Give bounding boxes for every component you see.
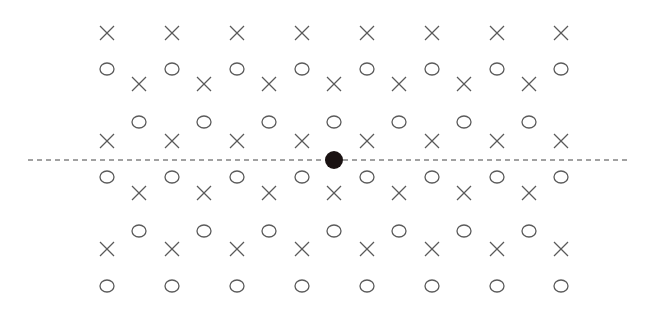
circle-symbol-icon (522, 116, 536, 128)
cross-symbol-icon (490, 26, 504, 40)
cross-symbol-icon (360, 26, 374, 40)
circle-symbol-icon (490, 280, 504, 292)
cross-symbol-icon (425, 134, 439, 148)
circle-symbol-icon (262, 116, 276, 128)
circle-symbol-icon (295, 63, 309, 75)
circle-symbol-icon (230, 280, 244, 292)
circle-symbol-icon (392, 225, 406, 237)
cross-symbol-icon (554, 242, 568, 256)
center-dot (325, 151, 343, 169)
circle-symbol-icon (554, 63, 568, 75)
circle-symbol-icon (327, 116, 341, 128)
circle-symbol-icon (490, 171, 504, 183)
circle-symbol-icon (360, 63, 374, 75)
cross-symbol-icon (262, 186, 276, 200)
cross-symbol-icon (522, 186, 536, 200)
circle-symbol-icon (230, 171, 244, 183)
circle-symbol-icon (490, 63, 504, 75)
circle-symbol-icon (425, 63, 439, 75)
cross-symbol-icon (165, 134, 179, 148)
cross-symbol-icon (490, 134, 504, 148)
cross-symbol-icon (230, 26, 244, 40)
circle-symbol-icon (197, 225, 211, 237)
circle-symbol-icon (165, 280, 179, 292)
circle-symbol-icon (327, 225, 341, 237)
circle-symbol-icon (132, 116, 146, 128)
circle-symbol-icon (522, 225, 536, 237)
circle-symbol-icon (100, 171, 114, 183)
circle-symbol-icon (295, 280, 309, 292)
cross-symbol-icon (327, 186, 341, 200)
cross-symbol-icon (360, 242, 374, 256)
cross-symbol-icon (392, 186, 406, 200)
circle-symbol-icon (392, 116, 406, 128)
cross-symbol-icon (100, 134, 114, 148)
cross-symbol-icon (522, 77, 536, 91)
circle-symbol-icon (132, 225, 146, 237)
circle-symbol-icon (425, 171, 439, 183)
circle-symbol-icon (457, 116, 471, 128)
circle-symbol-icon (230, 63, 244, 75)
circle-symbol-icon (360, 171, 374, 183)
cross-symbol-icon (295, 134, 309, 148)
cross-symbol-icon (425, 26, 439, 40)
cross-symbol-icon (262, 77, 276, 91)
cross-symbol-icon (554, 134, 568, 148)
circle-symbol-icon (295, 171, 309, 183)
circle-symbol-icon (425, 280, 439, 292)
cross-symbol-icon (457, 77, 471, 91)
circle-symbol-icon (165, 63, 179, 75)
circle-symbol-icon (100, 280, 114, 292)
circle-symbol-icon (197, 116, 211, 128)
cross-symbol-icon (165, 26, 179, 40)
circle-symbol-icon (262, 225, 276, 237)
circle-symbol-icon (554, 171, 568, 183)
cross-symbol-icon (132, 77, 146, 91)
cross-symbol-icon (165, 242, 179, 256)
cross-symbol-icon (230, 134, 244, 148)
cross-symbol-icon (295, 26, 309, 40)
cross-symbol-icon (425, 242, 439, 256)
circle-symbol-icon (554, 280, 568, 292)
cross-symbol-icon (100, 242, 114, 256)
circle-symbol-icon (165, 171, 179, 183)
cross-symbol-icon (392, 77, 406, 91)
cross-symbol-icon (230, 242, 244, 256)
cross-symbol-icon (295, 242, 309, 256)
circle-symbol-icon (360, 280, 374, 292)
cross-symbol-icon (197, 186, 211, 200)
cross-symbol-icon (197, 77, 211, 91)
cross-symbol-icon (490, 242, 504, 256)
cross-symbol-icon (554, 26, 568, 40)
circle-symbol-icon (457, 225, 471, 237)
cross-symbol-icon (327, 77, 341, 91)
cross-symbol-icon (100, 26, 114, 40)
circle-symbol-icon (100, 63, 114, 75)
cross-symbol-icon (132, 186, 146, 200)
cross-symbol-icon (457, 186, 471, 200)
lattice-diagram (0, 0, 646, 315)
cross-symbol-icon (360, 134, 374, 148)
